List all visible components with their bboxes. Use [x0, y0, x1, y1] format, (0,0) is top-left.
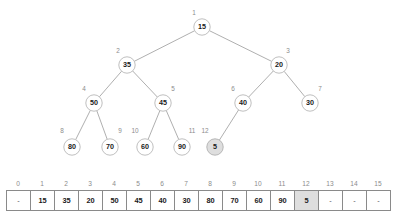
node-index-label: 10 — [131, 127, 139, 134]
array-index-label: 11 — [270, 178, 294, 190]
array-index-label: 10 — [246, 178, 270, 190]
tree-edge — [99, 71, 121, 97]
tree-node[interactable]: 115 — [192, 9, 210, 35]
array-index-label: 8 — [198, 178, 222, 190]
tree-edges — [76, 31, 305, 140]
array-cell[interactable]: - — [367, 191, 391, 211]
node-value-label: 60 — [141, 142, 149, 151]
array-index-header: 0123456789101112131415 — [6, 178, 390, 190]
node-value-label: 15 — [198, 22, 206, 31]
array-index-label: 3 — [78, 178, 102, 190]
node-value-label: 80 — [68, 142, 76, 151]
array-cell-row: -15352050454030807060905--- — [6, 190, 391, 211]
binary-tree-diagram: 11523532045054564073088097010601190125 — [0, 0, 400, 175]
tree-node[interactable]: 450 — [82, 85, 102, 111]
tree-edge — [249, 71, 274, 97]
array-cell[interactable]: - — [319, 191, 343, 211]
array-index-label: 0 — [6, 178, 30, 190]
node-value-label: 5 — [213, 142, 217, 151]
tree-edge — [133, 71, 158, 97]
tree-edge — [148, 111, 160, 140]
array-cell[interactable]: 80 — [199, 191, 223, 211]
array-index-label: 12 — [294, 178, 318, 190]
node-index-label: 4 — [82, 85, 86, 92]
node-value-label: 20 — [275, 60, 283, 69]
tree-node[interactable]: 235 — [116, 47, 135, 73]
tree-node[interactable]: 640 — [231, 85, 251, 111]
tree-edge — [76, 110, 91, 139]
array-cell[interactable]: 40 — [151, 191, 175, 211]
tree-node[interactable]: 880 — [60, 127, 80, 155]
array-cell[interactable]: 50 — [103, 191, 127, 211]
array-cell[interactable]: 70 — [223, 191, 247, 211]
node-value-label: 50 — [90, 98, 98, 107]
tree-edge — [284, 71, 305, 96]
tree-edge — [209, 31, 271, 62]
node-index-label: 2 — [116, 47, 120, 54]
tree-edge — [219, 110, 238, 140]
array-index-label: 13 — [318, 178, 342, 190]
tree-edge — [134, 31, 194, 62]
node-value-label: 45 — [159, 98, 167, 107]
array-index-label: 7 — [174, 178, 198, 190]
tree-node[interactable]: 545 — [155, 85, 175, 111]
node-index-label: 9 — [118, 127, 122, 134]
node-value-label: 35 — [123, 60, 131, 69]
array-cell-highlighted[interactable]: 5 — [295, 191, 319, 211]
array-index-label: 1 — [30, 178, 54, 190]
node-index-label: 12 — [201, 127, 209, 134]
node-value-label: 70 — [106, 142, 114, 151]
tree-edge — [166, 111, 178, 140]
tree-node[interactable]: 320 — [271, 47, 290, 73]
array-representation: 0123456789101112131415 -1535205045403080… — [6, 178, 390, 211]
array-index-label: 9 — [222, 178, 246, 190]
tree-node[interactable]: 730 — [302, 85, 322, 111]
node-index-label: 5 — [171, 85, 175, 92]
tree-canvas: 11523532045054564073088097010601190125 — [0, 0, 400, 175]
array-cell[interactable]: 20 — [79, 191, 103, 211]
array-index-label: 14 — [342, 178, 366, 190]
array-index-label: 2 — [54, 178, 78, 190]
tree-node[interactable]: 1190 — [174, 127, 196, 155]
tree-edge — [97, 111, 107, 140]
tree-nodes: 11523532045054564073088097010601190125 — [60, 9, 322, 155]
node-index-label: 8 — [60, 127, 64, 134]
array-cell[interactable]: - — [7, 191, 31, 211]
node-value-label: 30 — [306, 98, 314, 107]
array-index-label: 4 — [102, 178, 126, 190]
array-cell[interactable]: 60 — [247, 191, 271, 211]
tree-node[interactable]: 125 — [201, 127, 223, 155]
node-index-label: 11 — [189, 127, 196, 134]
array-cell[interactable]: 45 — [127, 191, 151, 211]
node-value-label: 40 — [239, 98, 247, 107]
array-cell[interactable]: 35 — [55, 191, 79, 211]
node-index-label: 1 — [192, 9, 196, 16]
tree-node[interactable]: 970 — [102, 127, 122, 155]
array-cell[interactable]: 90 — [271, 191, 295, 211]
node-value-label: 90 — [178, 142, 186, 151]
array-cell[interactable]: 30 — [175, 191, 199, 211]
node-index-label: 6 — [231, 85, 235, 92]
node-index-label: 3 — [286, 47, 290, 54]
node-index-label: 7 — [318, 85, 322, 92]
array-cell[interactable]: - — [343, 191, 367, 211]
array-cell[interactable]: 15 — [31, 191, 55, 211]
tree-node[interactable]: 1060 — [131, 127, 153, 155]
array-index-label: 15 — [366, 178, 390, 190]
array-index-label: 5 — [126, 178, 150, 190]
array-index-label: 6 — [150, 178, 174, 190]
